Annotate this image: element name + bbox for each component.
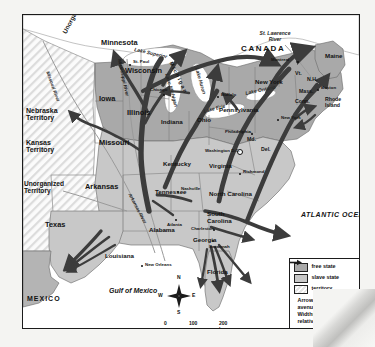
label-st-lawrence-river: St. Lawrence River: [255, 31, 295, 43]
label-kansas-territory: Kansas Territory: [26, 139, 76, 154]
label-mexico: MEXICO: [27, 295, 61, 302]
compass-rose: N S E W: [162, 279, 196, 313]
label-minnesota: Minnesota: [101, 39, 138, 47]
label-vermont: Vt.: [295, 71, 302, 76]
label-boston: Boston: [321, 86, 336, 91]
label-atlanta: Atlanta: [167, 223, 182, 228]
compass-north-label: N: [177, 274, 181, 280]
label-nebraska-territory: Nebraska Territory: [26, 107, 76, 122]
label-north-carolina: North Carolina: [209, 191, 252, 198]
label-new-york-city: New York: [281, 116, 301, 121]
label-montreal: Montreal: [271, 58, 289, 63]
label-st-paul: St. Paul: [133, 60, 149, 65]
map-frame: CANADA MEXICO ATLANTIC OCEAN Gulf of Mex…: [22, 14, 360, 329]
label-maine: Maine: [325, 53, 343, 60]
label-canada: CANADA: [241, 45, 285, 53]
scale-label-zero: 0: [164, 320, 167, 326]
label-iowa: Iowa: [99, 95, 115, 103]
scale-label-max: 200 km: [219, 320, 227, 329]
label-new-hampshire: N.H.: [307, 77, 317, 82]
label-connecticut: Conn.: [295, 99, 310, 104]
arrow-georgia-to-sea: [211, 227, 251, 239]
label-washington-dc: Washington D.C.: [205, 149, 240, 154]
map-screenshot: CANADA MEXICO ATLANTIC OCEAN Gulf of Mex…: [0, 0, 375, 347]
label-texas: Texas: [45, 221, 65, 229]
label-illinois: Illinois: [127, 109, 150, 117]
label-unorganized-territory-south: Unorganized Territory: [24, 181, 82, 195]
label-ohio: Ohio: [197, 117, 211, 124]
label-delaware: Del.: [261, 147, 271, 152]
legend-label-free-state: free state: [312, 263, 336, 270]
label-indiana: Indiana: [161, 119, 183, 126]
label-buffalo: Buffalo: [221, 93, 236, 98]
label-rhode-island: Rhode Island: [325, 97, 351, 108]
label-charleston: Charleston: [191, 227, 214, 232]
legend-swatch-slave-state: [294, 274, 308, 283]
legend-item-free-state: free state: [294, 263, 360, 272]
label-savannah: Savannah: [209, 245, 230, 250]
label-atlantic-ocean: ATLANTIC OCEAN: [301, 211, 353, 218]
label-new-orleans: New Orleans: [145, 263, 172, 268]
page-curl-shadow: [313, 289, 375, 347]
map-canvas: CANADA MEXICO ATLANTIC OCEAN Gulf of Mex…: [23, 15, 359, 328]
label-wisconsin: Wisconsin: [125, 67, 162, 75]
arrow-tennessee-feeder: [157, 195, 191, 201]
legend-label-slave-state: slave state: [312, 274, 340, 281]
label-philadelphia: Philadelphia: [225, 130, 251, 135]
arrow-florida-to-bahamas: [219, 245, 249, 281]
label-louisiana: Louisiana: [105, 253, 134, 260]
compass-south-label: S: [177, 309, 180, 315]
label-florida: Florida: [207, 269, 228, 276]
label-arkansas: Arkansas: [85, 183, 118, 191]
compass-west-label: W: [158, 292, 163, 298]
legend-item-slave-state: slave state: [294, 274, 360, 283]
label-richmond: Richmond: [243, 170, 264, 175]
label-maryland: Md.: [247, 137, 256, 142]
label-gulf-of-mexico: Gulf of Mexico: [109, 287, 157, 294]
label-virginia: Virginia: [209, 163, 232, 170]
arrow-alabama-feeder: [153, 201, 173, 215]
scale-label-mid: 100: [189, 320, 197, 326]
label-chicago: Chicago: [150, 88, 167, 93]
arrow-texas-to-mexico-1: [67, 231, 101, 267]
label-alabama: Alabama: [149, 227, 175, 234]
label-nashville: Nashville: [181, 187, 200, 192]
label-missouri: Missouri: [99, 139, 129, 147]
label-kentucky: Kentucky: [163, 161, 191, 168]
legend-swatch-territory: [294, 285, 308, 294]
arrow-florida-southwest: [201, 249, 207, 285]
label-south-carolina: South Carolina: [207, 211, 241, 224]
compass-east-label: E: [192, 292, 195, 298]
label-massachusetts: Mass.: [299, 89, 313, 94]
